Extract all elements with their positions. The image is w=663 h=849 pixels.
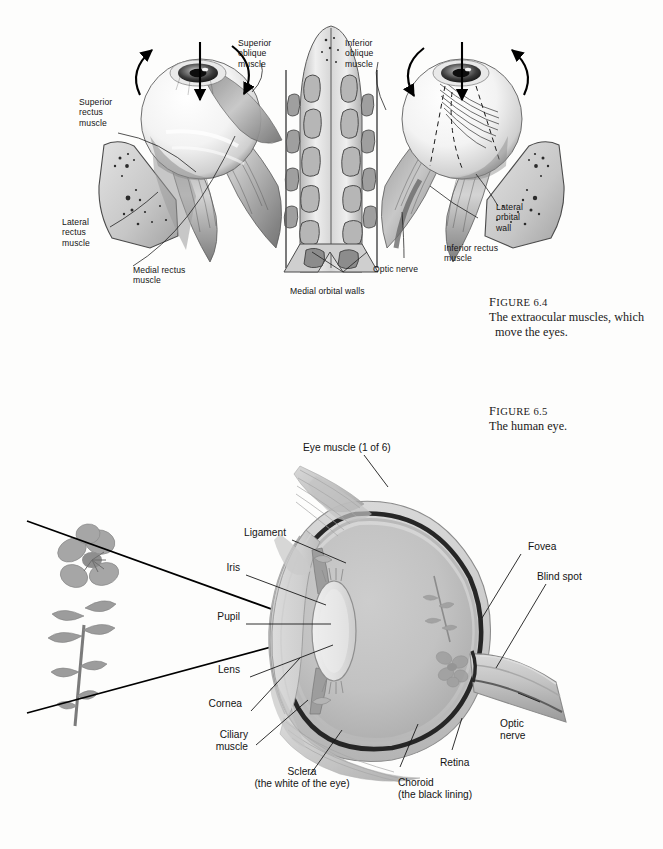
label-medial-orbital-walls: Medial orbital walls xyxy=(290,286,365,296)
figure-6-4-caption: FIGURE 6.4 The extraocular muscles, whic… xyxy=(489,295,659,339)
label-blind-spot: Blind spot xyxy=(537,571,582,583)
label-choroid: Choroid (the black lining) xyxy=(398,777,472,802)
label-cornea: Cornea xyxy=(160,698,242,710)
label-inferior-rectus-muscle: Inferior rectus muscle xyxy=(444,243,498,264)
figure-6-4-caption-head: FIGURE 6.4 xyxy=(489,295,659,310)
figure-6-5-caption-head: FIGURE 6.5 xyxy=(489,404,659,419)
label-eye-muscle: Eye muscle (1 of 6) xyxy=(303,442,391,454)
right-orbit-group xyxy=(381,59,564,262)
label-lateral-rectus-muscle: Lateral rectus muscle xyxy=(62,217,90,248)
label-superior-rectus-muscle: Superior rectus muscle xyxy=(79,97,112,128)
label-lens: Lens xyxy=(170,664,240,676)
label-lateral-orbital-wall: Lateral orbital wall xyxy=(496,202,523,233)
textbook-page: Superior rectus muscle Superior oblique … xyxy=(0,0,663,849)
optic-nerve-trunk xyxy=(470,654,566,722)
label-inferior-oblique-muscle: Inferior oblique muscle xyxy=(345,38,373,69)
label-optic-nerve: Optic nerve xyxy=(373,264,418,274)
extraocular-muscles-illustration xyxy=(0,0,663,300)
label-retina: Retina xyxy=(440,757,469,769)
flower-stimulus xyxy=(48,523,122,726)
label-sclera: Sclera (the white of the eye) xyxy=(212,766,392,791)
label-optic-nerve: Optic nerve xyxy=(500,718,525,743)
label-fovea: Fovea xyxy=(528,541,556,553)
figure-6-4-caption-line-1: The extraocular muscles, which xyxy=(489,310,659,325)
label-ciliary-muscle: Ciliary muscle xyxy=(170,729,248,754)
label-pupil: Pupil xyxy=(170,611,240,623)
label-iris: Iris xyxy=(170,562,240,574)
label-superior-oblique-muscle: Superior oblique muscle xyxy=(238,38,271,69)
label-medial-rectus-muscle: Medial rectus muscle xyxy=(133,265,185,286)
figure-6-4-caption-line-2: move the eyes. xyxy=(489,325,659,340)
label-ligament: Ligament xyxy=(170,527,286,539)
